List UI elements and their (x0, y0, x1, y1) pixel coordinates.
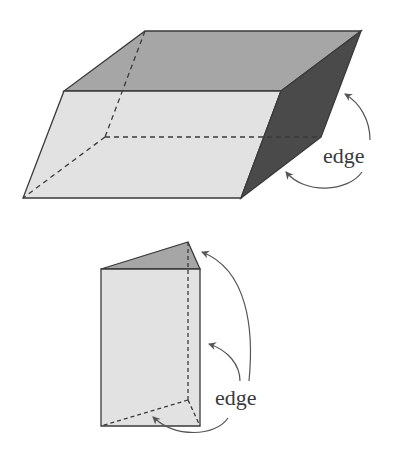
arrow-icon (209, 344, 240, 381)
front-face (101, 269, 200, 426)
arrow-icon (286, 172, 362, 188)
edge-label: edge (323, 143, 365, 168)
arrow-icon (202, 252, 250, 381)
top-face (101, 242, 200, 269)
parallelepiped: edge (23, 31, 370, 198)
triangular-prism: edge (101, 242, 257, 433)
arrow-icon (345, 94, 370, 140)
prism-diagram: edge edge (0, 0, 409, 456)
front-face (23, 91, 281, 198)
edge-label: edge (215, 385, 257, 410)
